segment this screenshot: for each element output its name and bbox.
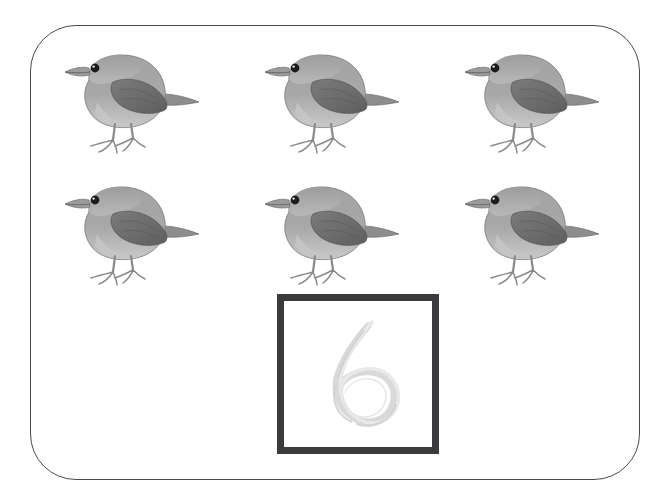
bird-item <box>253 42 401 160</box>
bird-icon <box>453 42 601 160</box>
bird-item <box>53 174 201 292</box>
answer-glyph-wrap: 6 <box>284 301 432 447</box>
digit-six-icon <box>298 308 418 440</box>
bird-icon <box>453 174 601 292</box>
bird-item <box>53 42 201 160</box>
answer-box[interactable]: 6 <box>277 294 439 454</box>
bird-icon <box>53 174 201 292</box>
bird-icon <box>253 174 401 292</box>
bird-grid <box>31 26 641 288</box>
bird-icon <box>53 42 201 160</box>
bird-item <box>453 42 601 160</box>
worksheet-card: 6 <box>30 25 640 480</box>
bird-icon <box>253 42 401 160</box>
bird-item <box>253 174 401 292</box>
bird-item <box>453 174 601 292</box>
